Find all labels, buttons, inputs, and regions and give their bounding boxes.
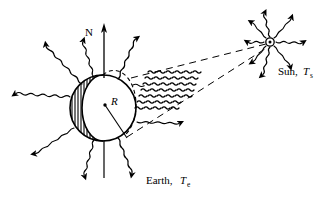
sun-ray-right (276, 41, 302, 43)
sun-temp-subscript: s (310, 71, 313, 80)
sun-ray-up (264, 14, 270, 37)
north-label: N (85, 26, 93, 38)
earth-label-text: Earth, (146, 174, 173, 186)
sun-label-text: Sun, (278, 65, 298, 77)
emitted-ray-up-left-2 (83, 42, 94, 77)
sun-ray-down-left (253, 46, 266, 62)
emitted-ray-right (137, 122, 179, 125)
emitted-ray-right-short (133, 84, 144, 86)
sun-ray-down-right (274, 46, 290, 66)
sun-ray-up-left (252, 23, 266, 38)
earth-radius-line (105, 105, 127, 138)
emitted-ray-up-right (118, 39, 136, 79)
emitted-ray-down-right (118, 138, 132, 173)
solar-beam-waves (135, 71, 201, 109)
earth-temp-subscript: e (187, 180, 191, 189)
earth-outline (70, 75, 136, 141)
sun-disc (266, 38, 274, 46)
sun-ray-up-right (274, 19, 291, 38)
earth-temp-symbol: T (180, 174, 187, 186)
sun-label-group: Sun, T s (278, 65, 313, 80)
figure-canvas: N (0, 0, 327, 204)
emitted-ray-left-upper (16, 92, 70, 97)
diagram-svg: N (0, 0, 327, 204)
emitted-ray-up-left (46, 46, 82, 84)
earth-label-group: Earth, T e (146, 174, 191, 189)
sun-ray-left (248, 41, 264, 43)
sun-temp-symbol: T (303, 65, 310, 77)
emitted-ray-down-left-2 (84, 140, 94, 175)
radius-label: R (110, 95, 118, 107)
earth-terminator (82, 75, 103, 141)
earth-sphere (70, 70, 136, 148)
emitted-ray-down-left (36, 128, 74, 154)
sun-ray-down (263, 47, 270, 75)
earth-center-dot (103, 103, 106, 106)
rotation-axis-group (101, 23, 107, 178)
sun-center-dot (269, 41, 272, 44)
beam-edge-bottom (127, 47, 268, 137)
